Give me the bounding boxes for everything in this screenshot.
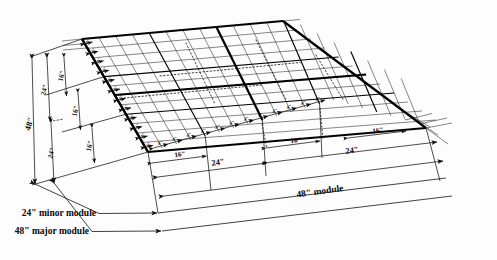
bottom-callout-rails [158,178,452,231]
callout-major-leader [92,231,161,232]
grid-surface [62,20,452,153]
bottom-dim-16-a-label: 16" [174,150,186,159]
left-extension-lines [30,39,148,185]
left-4-label: 4" [101,66,108,73]
callout-minor-leader [99,213,157,214]
left-4-label: 4" [134,122,141,129]
left-dim-24-lower-label: 24" [46,147,56,160]
grid-overrun-tails [62,20,452,145]
callout-group: 24" minor module 48" major module [15,183,161,236]
left-4-label: 4" [140,132,147,139]
left-dim-16-c-label: 16" [85,140,95,152]
callout-minor-module-label: 24" minor module [22,208,96,218]
grid-lines-medium-a [104,57,394,114]
bottom-dim-16-b-label: 16" [290,136,302,145]
perspective-grid-drawing: 48" 24" 24" 16" 16" 16" [0,0,497,260]
diagram-canvas: 48" 24" 24" 16" 16" 16" [0,0,497,260]
left-4-label: 4" [96,57,103,64]
left-dim-24-break-dots [50,119,64,122]
bottom-dim-24-a-label: 24" [211,156,225,168]
callout-major-module-label: 48" major module [15,226,89,236]
bottom-dim-16-c-label: 16" [372,126,384,135]
left-4-label: 4" [123,104,130,111]
left-4-label: 4" [90,47,97,54]
left-dimension-stack: 48" 24" 24" 16" 16" 16" [22,38,153,185]
bottom-dim-24-b-label: 24" [345,144,359,156]
bottom-dimension-stack: 16" 16" 16" 24" 24" 48" module [148,96,452,231]
left-4-label: 4" [145,141,152,148]
left-4-label: 4" [112,85,119,92]
